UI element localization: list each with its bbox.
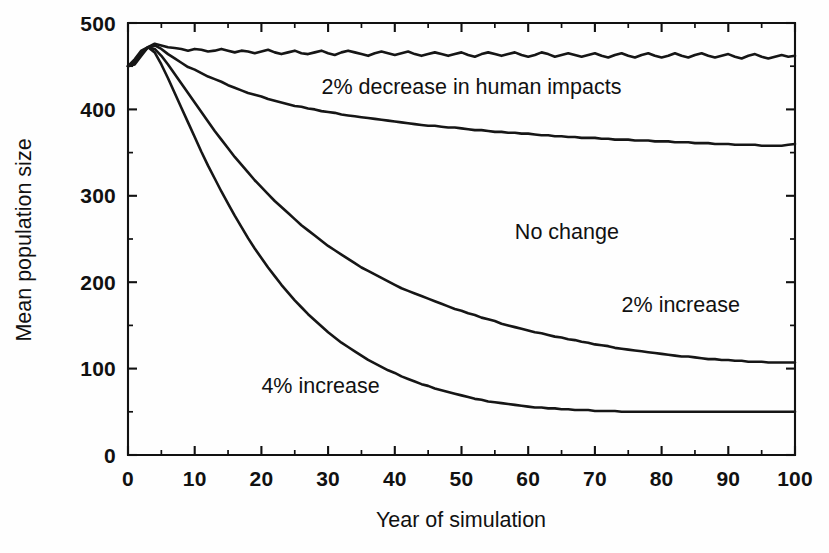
y-tick-label: 100 — [80, 357, 116, 380]
x-axis-title: Year of simulation — [376, 508, 546, 532]
x-tick-label: 80 — [650, 467, 674, 490]
y-tick-label: 400 — [80, 98, 116, 121]
x-tick-label: 90 — [716, 467, 740, 490]
y-tick-label: 300 — [80, 184, 116, 207]
series-annotation-3: 4% increase — [261, 374, 379, 398]
x-tick-label: 70 — [583, 467, 607, 490]
figure-root: 0102030405060708090100 0100200300400500 … — [0, 0, 829, 553]
y-tick-label: 0 — [104, 444, 116, 467]
x-tick-label: 60 — [516, 467, 540, 490]
y-axis-title: Mean population size — [12, 138, 36, 341]
series-annotation-0: 2% decrease in human impacts — [321, 75, 621, 99]
x-tick-label: 50 — [450, 467, 474, 490]
x-tick-label: 40 — [383, 467, 407, 490]
y-tick-label: 200 — [80, 271, 116, 294]
x-tick-label: 100 — [777, 467, 813, 490]
x-tick-label: 20 — [250, 467, 274, 490]
x-tick-label: 30 — [316, 467, 340, 490]
y-tick-label: 500 — [80, 12, 116, 35]
series-annotation-1: No change — [515, 220, 619, 244]
population-simulation-chart: 0102030405060708090100 0100200300400500 … — [0, 0, 829, 553]
series-annotation-2: 2% increase — [622, 293, 740, 317]
x-tick-label: 10 — [183, 467, 207, 490]
x-tick-label: 0 — [122, 467, 134, 490]
